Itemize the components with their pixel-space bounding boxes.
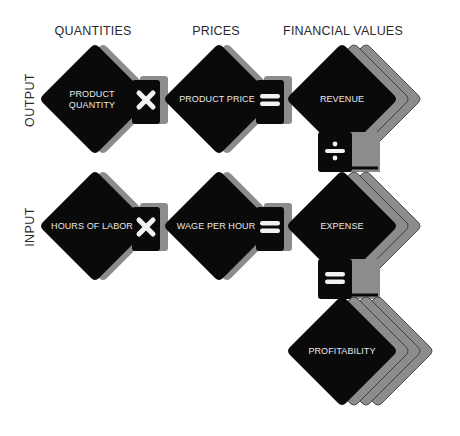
node-profitability: PROFITABILITY	[308, 346, 375, 357]
node-hours-of-labor: HOURS OF LABOR	[51, 221, 133, 232]
node-expense: EXPENSE	[320, 221, 363, 232]
input-equals-connector	[256, 203, 292, 251]
diagram-canvas	[0, 0, 460, 436]
node-product-quantity: PRODUCT QUANTITY	[69, 89, 115, 111]
expense-equals-connector	[318, 259, 380, 299]
node-product-quantity-line1: PRODUCT	[69, 89, 115, 100]
output-multiply-connector	[132, 76, 168, 124]
row-label-output: OUTPUT	[23, 73, 37, 127]
output-equals-connector	[256, 76, 292, 124]
node-wage-per-hour: WAGE PER HOUR	[177, 221, 255, 232]
input-multiply-connector	[132, 203, 168, 251]
row-label-input: INPUT	[23, 207, 37, 247]
column-header-financial-values: FINANCIAL VALUES	[283, 24, 403, 38]
column-header-prices: PRICES	[192, 24, 240, 38]
node-product-quantity-line2: QUANTITY	[69, 100, 115, 111]
column-header-quantities: QUANTITIES	[54, 24, 131, 38]
node-product-price: PRODUCT PRICE	[179, 94, 255, 105]
node-revenue: REVENUE	[320, 94, 364, 105]
